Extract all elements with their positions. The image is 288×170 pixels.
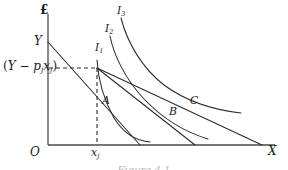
dashed-guides-group [49,68,97,145]
residual-body: Y − p [8,59,41,73]
indifference-curve-1-label: I1 [95,42,103,53]
indifference-curve-3 [121,18,241,113]
i3-subscript: 3 [121,10,125,18]
x-axis-quantity-tick-label: xj [91,147,99,158]
equilibrium-point-a-label: A [102,95,110,106]
y-intercept-income-label: Y [34,35,42,47]
indifference-curves-group [97,18,241,142]
residual-paren-close: ) [52,59,57,73]
figure-indifference-curve-diagram: £ X O Y (Y − pjxj) xj I1 I2 I3 A B C Fig… [0,0,288,170]
origin-label: O [30,146,40,158]
y-intercept-residual-income-label: (Y − pjxj) [3,60,57,72]
x-axis-label: X [268,145,277,157]
budget-line-steepest [48,42,140,145]
diagram-canvas [0,0,288,170]
equilibrium-point-b-label: B [169,106,177,117]
indifference-curve-2 [110,36,208,139]
y-axis-currency-label: £ [40,4,48,16]
indifference-curve-3-label: I3 [117,5,125,16]
residual-subscript-1: j [41,65,43,74]
i2-subscript: 2 [109,28,113,36]
budget-lines-group [48,42,262,145]
i1-subscript: 1 [99,47,103,55]
equilibrium-point-c-label: C [190,95,198,106]
figure-caption: Figure 4.1 [0,164,288,170]
indifference-curve-2-label: I2 [105,23,113,34]
